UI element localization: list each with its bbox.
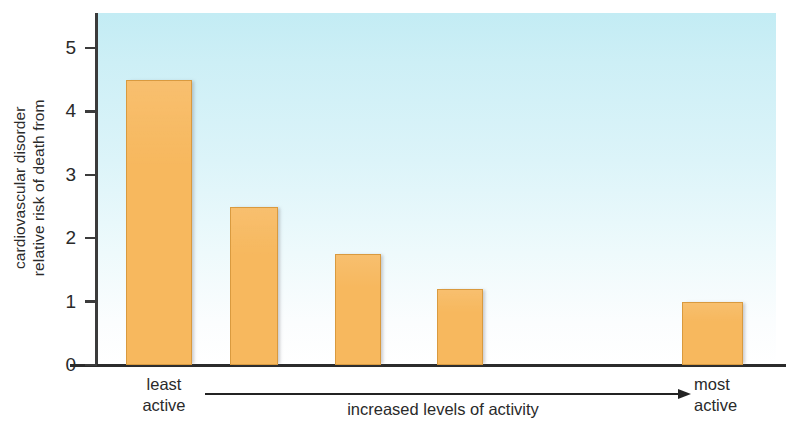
y-tick-label: 4: [42, 100, 76, 122]
bar: [126, 80, 192, 365]
bar: [230, 207, 278, 366]
x-axis-annotation: least active increased levels of activit…: [0, 367, 793, 433]
most-active-line1: most: [694, 374, 770, 395]
y-tick-label: 3: [42, 164, 76, 186]
least-active-line1: least: [127, 374, 201, 395]
y-tick-mark: [85, 300, 97, 303]
y-tick-mark: [85, 364, 97, 367]
y-axis-title-line1: relative risk of death from: [30, 99, 48, 276]
least-active-label: least active: [127, 374, 201, 417]
y-axis-line: [95, 13, 98, 366]
bar: [682, 302, 743, 365]
arrow-shaft: [205, 393, 681, 395]
y-tick-label: 2: [42, 227, 76, 249]
most-active-label: most active: [694, 374, 770, 417]
bar: [437, 289, 483, 365]
y-tick-mark: [85, 110, 97, 113]
chart-figure: relative risk of death from cardiovascul…: [0, 0, 793, 433]
y-tick-label: 1: [42, 291, 76, 313]
x-axis-caption: increased levels of activity: [205, 400, 681, 419]
y-axis-title-line2: cardiovascular disorder: [10, 106, 28, 269]
most-active-line2: active: [694, 395, 770, 416]
bar: [335, 254, 381, 365]
y-tick-mark: [85, 47, 97, 50]
y-tick-mark: [85, 174, 97, 177]
increased-activity-arrow-icon: [205, 389, 691, 400]
y-tick-mark: [85, 237, 97, 240]
arrow-head: [678, 389, 691, 399]
least-active-line2: active: [127, 395, 201, 416]
y-tick-label: 5: [42, 37, 76, 59]
